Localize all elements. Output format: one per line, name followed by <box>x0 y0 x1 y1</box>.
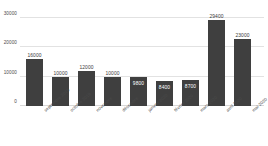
bar-value-label: 10000 <box>105 71 119 76</box>
x-axis-tick-label: novembre <box>95 109 98 113</box>
bar-value-label: 12000 <box>79 65 93 70</box>
bar[interactable] <box>234 39 251 106</box>
x-axis-tick-label: janvier 2020 <box>147 109 150 113</box>
bar-item[interactable]: 29400 <box>208 20 225 106</box>
bar-value-label: 16000 <box>27 53 41 58</box>
y-axis-tick-label: 20000 <box>4 40 17 45</box>
x-axis-tick-label: avril 2020 <box>225 109 228 113</box>
bar-item[interactable]: 16000 <box>26 59 43 106</box>
bar-value-label: 8700 <box>185 84 196 89</box>
bar-item[interactable]: 23000 <box>234 39 251 106</box>
bar[interactable] <box>208 20 225 106</box>
x-axis-tick-label: mars 2020 <box>199 109 202 113</box>
x-axis-tick-label: octobre 2019 <box>69 109 72 113</box>
bar[interactable] <box>26 59 43 106</box>
bar-value-label: 10000 <box>53 71 67 76</box>
y-axis-tick-label: 30000 <box>4 11 17 16</box>
bar-value-label: 23000 <box>235 33 249 38</box>
bar-value-label: 8400 <box>159 85 170 90</box>
x-axis-tick-label: mai 2020 <box>251 109 254 113</box>
bar-value-label: 29400 <box>209 14 223 19</box>
x-axis-tick-label: décembre <box>121 109 124 113</box>
x-axis-labels: septembre 2019octobre 2019novembredécemb… <box>20 106 264 146</box>
y-axis-tick-label: 10000 <box>4 69 17 74</box>
bar-value-label: 9800 <box>133 81 144 86</box>
y-axis-tick-label: 0 <box>14 99 17 104</box>
bar-chart: 0100002000030000 16000100001200010000980… <box>0 0 268 146</box>
x-axis-tick-label: février 2020 <box>173 109 176 113</box>
x-axis-tick-label: septembre 2019 <box>43 109 46 113</box>
